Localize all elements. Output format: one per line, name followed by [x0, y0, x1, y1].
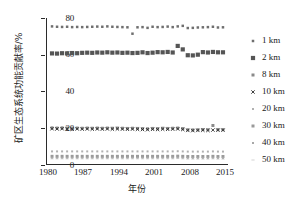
series-20-km: [51, 150, 224, 152]
y-tick-mark-60: [41, 55, 45, 56]
x-tick-label-1987: 1987: [63, 168, 103, 177]
legend-item-label: 8 km: [259, 70, 280, 79]
legend-marker-icon: [247, 70, 259, 80]
legend-item-label: 2 km: [259, 53, 280, 62]
legend-item-label: 20 km: [259, 104, 285, 113]
x-tick-label-2008: 2008: [170, 168, 210, 177]
legend-item-label: 40 km: [259, 138, 285, 147]
legend-item-30km: 30 km: [247, 117, 305, 134]
legend-item-20km: 20 km: [247, 100, 305, 117]
legend-marker-icon: [247, 104, 259, 114]
legend-item-label: 10 km: [259, 87, 285, 96]
legend-item-40km: 40 km: [247, 134, 305, 151]
legend-marker-icon: [247, 155, 259, 165]
legend-marker-icon: [247, 87, 259, 97]
series-2-km: [50, 44, 225, 58]
legend-item-1km: 1 km: [247, 32, 305, 49]
chart-legend: 1 km 2 km 8 km 10 km 20 km 30 km 40 km: [247, 32, 305, 168]
y-tick-mark-0: [41, 165, 45, 166]
legend-item-10km: 10 km: [247, 83, 305, 100]
legend-item-50km: 50 km: [247, 151, 305, 168]
y-tick-mark-40: [41, 91, 45, 92]
plot-area: [46, 18, 228, 165]
legend-item-label: 1 km: [259, 36, 280, 45]
legend-marker-icon: [247, 53, 259, 63]
x-tick-label-2015: 2015: [205, 168, 245, 177]
series-1-km: [51, 25, 224, 35]
legend-marker-icon: [247, 121, 259, 131]
data-markers: [47, 18, 228, 164]
legend-item-2km: 2 km: [247, 49, 305, 66]
legend-item-label: 30 km: [259, 121, 285, 130]
y-axis-label: 矿区生态系统功能贡献率/%: [14, 13, 24, 163]
legend-marker-icon: [247, 36, 259, 46]
legend-item-label: 50 km: [259, 155, 285, 164]
x-tick-label-1980: 1980: [28, 168, 68, 177]
legend-marker-icon: [247, 138, 259, 148]
series-layer: [47, 18, 228, 164]
chart-figure: 80 60 40 20 0 矿区生态系统功能贡献率/% 1980 1987 19…: [0, 0, 305, 207]
x-tick-label-2001: 2001: [134, 168, 174, 177]
x-axis-label: 年份: [46, 182, 228, 195]
y-tick-mark-80: [41, 18, 45, 19]
legend-item-8km: 8 km: [247, 66, 305, 83]
x-tick-label-1994: 1994: [99, 168, 139, 177]
y-tick-mark-20: [41, 128, 45, 129]
